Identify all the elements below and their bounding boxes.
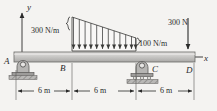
point-label-b: B [60, 64, 66, 73]
dimension-label-cd: 6 m [160, 87, 172, 95]
diagram-canvas [0, 0, 217, 111]
dimension-label-ab: 6 m [38, 87, 50, 95]
dimension-label-bc: 6 m [94, 87, 106, 95]
point-label-d: D [186, 66, 193, 75]
load-label-100-n-per-m: 100 N/m [139, 40, 167, 48]
x-axis-label: x [204, 54, 208, 63]
load-label-300-n: 300 N [168, 19, 188, 27]
beam [14, 52, 195, 62]
load-label-300-n-per-m: 300 N/m [31, 27, 59, 35]
y-axis-label: y [27, 3, 31, 12]
point-label-a: A [4, 57, 10, 66]
distributed-load [66, 17, 141, 51]
pin-support-A [9, 61, 37, 80]
beam-diagram: y x A B C D 300 N/m 100 N/m 300 N 6 m 6 … [0, 0, 217, 111]
point-label-c: C [152, 65, 158, 74]
